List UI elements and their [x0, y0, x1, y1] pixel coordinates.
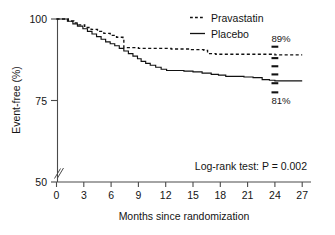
- annotation-pravastatin-endpoint: 89%: [271, 33, 291, 44]
- y-tick-label-50: 50: [35, 176, 47, 188]
- series-pravastatin-curve: [57, 19, 303, 55]
- annotation-placebo-endpoint: 81%: [271, 95, 291, 106]
- legend-label-pravastatin: Pravastatin: [211, 12, 264, 24]
- x-tick-label-27: 27: [296, 189, 308, 201]
- x-tick-label-6: 6: [108, 189, 114, 201]
- x-axis: [57, 182, 312, 187]
- x-tick-label-3: 3: [81, 189, 87, 201]
- x-tick-label-12: 12: [160, 189, 172, 201]
- legend-label-placebo: Placebo: [211, 28, 249, 40]
- y-tick-label-75: 75: [35, 95, 47, 107]
- series-placebo-curve: [57, 19, 303, 81]
- x-tick-label-9: 9: [135, 189, 141, 201]
- legend: Pravastatin Placebo: [190, 12, 264, 40]
- y-axis-title: Event-free (%): [10, 66, 22, 134]
- x-tick-label-21: 21: [242, 189, 254, 201]
- log-rank-statistic: Log-rank test: P = 0.002: [195, 160, 307, 172]
- y-tick-label-100: 100: [29, 13, 47, 25]
- x-tick-label-24: 24: [269, 189, 281, 201]
- kaplan-meier-figure: 100 75 50 0 3 6 9 12 15 18 21 24 27 Even…: [0, 0, 335, 235]
- x-tick-label-0: 0: [54, 189, 60, 201]
- x-tick-label-18: 18: [214, 189, 226, 201]
- y-axis: [51, 19, 64, 182]
- plot-canvas: 100 75 50 0 3 6 9 12 15 18 21 24 27 Even…: [0, 0, 335, 235]
- y-axis-break-icon: [55, 168, 64, 179]
- x-tick-label-15: 15: [187, 189, 199, 201]
- x-axis-title: Months since randomization: [119, 210, 250, 222]
